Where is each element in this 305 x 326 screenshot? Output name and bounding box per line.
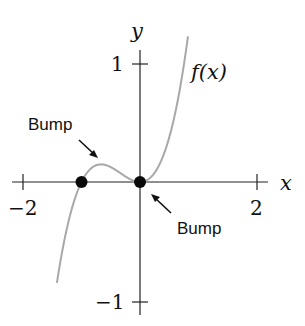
x-tick-label-2: 2: [250, 196, 263, 220]
x-tick-label-neg2: −2: [8, 196, 37, 220]
root-point-0: [134, 176, 146, 188]
arrow-icon: [155, 198, 171, 213]
bump-annotation-upper: Bump: [28, 115, 72, 134]
function-plot: y x f(x) −2 2 1 −1 Bump Bump: [0, 0, 305, 326]
y-tick-label-1: 1: [111, 52, 124, 76]
bump-annotation-lower: Bump: [177, 219, 221, 238]
x-axis-label: x: [280, 171, 292, 195]
y-tick-label-neg1: −1: [95, 290, 124, 314]
root-point-neg1: [76, 176, 88, 188]
y-axis-label: y: [130, 19, 144, 43]
function-label: f(x): [189, 60, 227, 84]
